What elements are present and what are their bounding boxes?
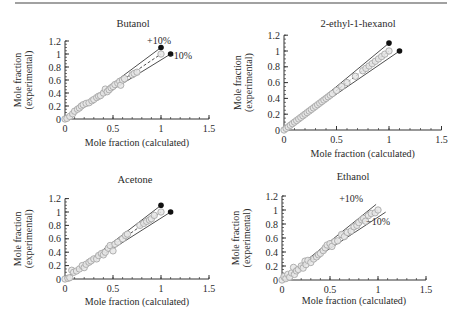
y-tick-label: 1	[56, 207, 61, 218]
y-axis-label: (experimental)	[23, 209, 35, 268]
x-tick-label: 1	[387, 134, 392, 145]
y-tick-label: 0.2	[268, 109, 281, 120]
x-tick-label: 0	[280, 284, 285, 295]
x-axis-label: Mole fraction (calculated)	[302, 295, 406, 307]
data-point-marker	[121, 76, 127, 82]
y-axis-label: (experimental)	[23, 51, 35, 110]
y-tick-label: 0	[273, 275, 278, 286]
y-tick-label: 1	[275, 46, 280, 57]
y-axis-label: Mole fraction	[230, 211, 241, 266]
x-tick-label: 1.5	[203, 123, 216, 134]
y-tick-label: 1.2	[49, 36, 62, 47]
chart-title: Ethanol	[337, 171, 370, 182]
data-point-marker	[151, 212, 157, 218]
x-tick-label: 1	[376, 284, 381, 295]
data-point-marker	[375, 207, 381, 213]
y-tick-label: 0.6	[266, 233, 279, 244]
plot-area: Mole fraction(experimental)00.511.500.20…	[12, 193, 215, 294]
y-tick-label: 1.2	[49, 193, 62, 204]
plot-area: Mole fraction(experimental)00.511.500.20…	[232, 30, 448, 145]
y-tick-label: 0	[56, 114, 61, 125]
data-point-marker	[334, 238, 340, 244]
y-axis-label: Mole fraction	[12, 211, 23, 266]
y-tick-label: 1.2	[268, 30, 281, 41]
y-tick-label: 0.8	[266, 219, 279, 230]
x-tick-label: 0.5	[324, 284, 337, 295]
data-point-marker	[110, 248, 116, 254]
data-point-marker	[158, 51, 164, 57]
chart-acetone: Acetone Mole fraction (calculated) Mole …	[12, 174, 215, 308]
y-tick-label: 0.4	[268, 93, 281, 104]
tolerance-annotation: +10%	[147, 35, 171, 46]
y-tick-label: 0.8	[49, 62, 62, 73]
x-tick-label: 1	[159, 123, 164, 134]
y-axis-label: (experimental)	[241, 209, 253, 268]
endpoint-marker	[397, 48, 403, 54]
x-tick-label: 0	[63, 283, 68, 294]
chart-2-ethyl-1-hexanol: 2-ethyl-1-hexanol Mole fraction (calcula…	[232, 18, 448, 160]
chart-title: 2-ethyl-1-hexanol	[320, 18, 395, 29]
y-tick-label: 0.2	[49, 101, 62, 112]
x-tick-label: 0.5	[107, 123, 120, 134]
y-tick-label: 0.2	[49, 260, 62, 271]
plot-area: Mole fraction(experimental)00.511.500.20…	[230, 191, 432, 296]
x-tick-label: 1.5	[420, 284, 433, 295]
x-tick-label: 1.5	[435, 134, 448, 145]
y-tick-label: 0.6	[268, 77, 281, 88]
plot-area: Mole fraction(experimental)00.511.500.20…	[12, 35, 215, 134]
chart-title: Acetone	[118, 174, 153, 185]
y-axis-label: (experimental)	[243, 53, 255, 112]
y-tick-label: 0.6	[49, 233, 62, 244]
data-point-marker	[352, 73, 358, 79]
x-tick-label: 0.5	[107, 283, 120, 294]
y-tick-label: 1	[56, 49, 61, 60]
y-tick-label: 0.4	[49, 247, 62, 258]
y-tick-label: 0.6	[49, 75, 62, 86]
x-axis-label: Mole fraction (calculated)	[85, 137, 189, 149]
endpoint-marker	[168, 209, 174, 215]
data-point-marker	[386, 48, 392, 54]
y-tick-label: 0.4	[266, 247, 279, 258]
figure-2x2-scatter-panels: Butanol Mole fraction (calculated) Mole …	[0, 0, 461, 320]
data-point-marker	[344, 79, 350, 85]
endpoint-marker	[386, 40, 392, 46]
y-tick-label: 0	[56, 274, 61, 285]
endpoint-marker	[158, 203, 164, 209]
tolerance-annotation: −10%	[366, 216, 390, 227]
data-point-marker	[158, 209, 164, 215]
y-tick-label: 1	[273, 205, 278, 216]
x-tick-label: 0	[63, 123, 68, 134]
tolerance-annotation: −10%	[168, 50, 192, 61]
x-axis-label: Mole fraction (calculated)	[311, 148, 415, 160]
x-tick-label: 1.5	[203, 283, 216, 294]
figure-canvas: Butanol Mole fraction (calculated) Mole …	[0, 0, 461, 320]
chart-butanol: Butanol Mole fraction (calculated) Mole …	[12, 18, 215, 149]
x-tick-label: 1	[159, 283, 164, 294]
x-tick-label: 0.5	[330, 134, 343, 145]
y-axis-label: Mole fraction	[232, 55, 243, 110]
y-axis-label: Mole fraction	[12, 53, 23, 108]
data-point-marker	[134, 69, 140, 75]
y-tick-label: 1.2	[266, 191, 279, 202]
tolerance-annotation: +10%	[339, 193, 363, 204]
y-tick-label: 0.4	[49, 88, 62, 99]
chart-ethanol: Ethanol Mole fraction (calculated) Mole …	[230, 171, 432, 307]
x-axis-label: Mole fraction (calculated)	[85, 296, 189, 308]
data-point-marker	[124, 231, 130, 237]
x-tick-label: 0	[282, 134, 287, 145]
y-tick-label: 0.2	[266, 261, 279, 272]
y-tick-label: 0.8	[268, 61, 281, 72]
y-tick-label: 0	[275, 125, 280, 136]
y-tick-label: 0.8	[49, 220, 62, 231]
chart-title: Butanol	[116, 18, 149, 29]
